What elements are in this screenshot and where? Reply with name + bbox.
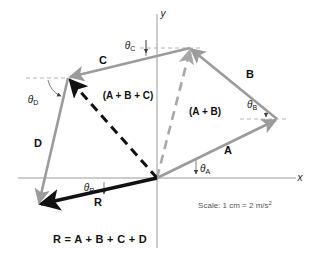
vector-canvas xyxy=(0,0,322,254)
angle-label-theta-r: θR xyxy=(84,183,95,193)
theta-subscript-d: D xyxy=(33,99,38,106)
vector-label-d: D xyxy=(34,138,42,149)
theta-subscript-r: R xyxy=(89,187,94,194)
vector-label-b: B xyxy=(246,69,254,80)
y-axis-label: y xyxy=(161,9,166,19)
x-axis-label: x xyxy=(298,173,303,183)
vector-a xyxy=(157,120,276,178)
vector-c xyxy=(70,48,190,77)
angle-label-theta-c: θC xyxy=(125,41,136,51)
vector-d xyxy=(39,78,68,203)
vector-label-r: R xyxy=(94,197,102,208)
resultant-equation: R = A + B + C + D xyxy=(53,234,147,245)
vector-diagram-figure: x y A B C D R (A + B + C) (A + B) θA θB … xyxy=(0,0,322,254)
label-a-plus-b-plus-c: (A + B + C) xyxy=(103,91,154,101)
angle-arc-theta-d xyxy=(48,80,61,96)
vector-a-plus-b xyxy=(157,50,190,178)
scale-note: Scale: 1 cm = 2 m/s2 xyxy=(198,200,272,211)
scale-note-exponent: 2 xyxy=(269,200,272,206)
angle-label-theta-a: θA xyxy=(200,164,210,174)
vector-label-c: C xyxy=(99,55,107,66)
vector-label-a: A xyxy=(224,145,232,156)
theta-subscript-a: A xyxy=(205,168,210,175)
theta-subscript-c: C xyxy=(130,45,135,52)
angle-label-theta-b: θB xyxy=(247,100,257,110)
angle-label-theta-d: θD xyxy=(28,95,39,105)
label-a-plus-b: (A + B) xyxy=(189,107,221,117)
theta-subscript-b: B xyxy=(252,104,257,111)
scale-note-text: Scale: 1 cm = 2 m/s xyxy=(198,201,268,210)
